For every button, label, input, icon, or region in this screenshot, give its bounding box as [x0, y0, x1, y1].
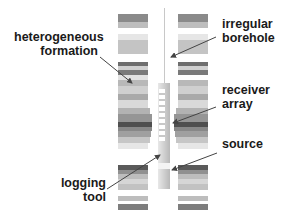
borehole-logging-diagram: heterogeneous formation irregular boreho…: [0, 0, 282, 218]
label-source: source: [222, 137, 263, 151]
label-receiver-array: receiver array: [222, 83, 270, 111]
label-heterogeneous-formation: heterogeneous formation: [14, 30, 98, 58]
label-irregular-borehole: irregular borehole: [222, 17, 275, 45]
label-logging-tool: logging tool: [50, 176, 106, 204]
